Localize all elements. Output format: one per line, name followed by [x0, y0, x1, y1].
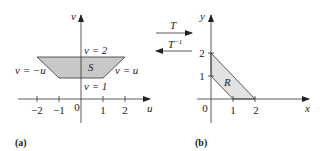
boundary-label-left: v = −u — [15, 64, 46, 76]
boundary-label-bottom: v = 1 — [84, 80, 107, 92]
x-axis-label: x — [304, 102, 310, 114]
origin-label: 0 — [202, 102, 208, 114]
diagram-canvas: −2 −1 0 1 2 u v v = 2 v = 1 v = −u v = u… — [0, 0, 327, 151]
u-tick-label: 2 — [122, 104, 128, 116]
u-tick-label: −1 — [53, 104, 65, 116]
x-tick-label: 1 — [230, 104, 236, 116]
forward-label: T — [170, 19, 177, 31]
y-tick-label: 1 — [199, 70, 205, 82]
boundary-label-top: v = 2 — [84, 44, 108, 56]
panel-a: −2 −1 0 1 2 u v v = 2 v = 1 v = −u v = u… — [15, 10, 153, 149]
origin-label: 0 — [74, 101, 80, 113]
u-tick-label: 1 — [100, 104, 106, 116]
inverse-label: T−1 — [168, 38, 182, 50]
region-r — [211, 53, 255, 99]
region-label-s: S — [88, 61, 94, 73]
u-tick-label: −2 — [31, 104, 43, 116]
x-tick-label: 2 — [253, 104, 259, 116]
v-axis-label: v — [71, 10, 76, 22]
panel-b: 0 1 2 1 2 x y R (b) — [195, 10, 310, 149]
boundary-label-right: v = u — [115, 64, 139, 76]
y-axis-label: y — [199, 10, 205, 22]
inverse-label-superscript: −1 — [174, 38, 182, 46]
y-tick-label: 2 — [199, 47, 205, 59]
caption-b: (b) — [195, 137, 207, 149]
transform-arrows: T T−1 — [156, 19, 192, 51]
u-axis-label: u — [147, 102, 153, 114]
region-label-r: R — [223, 76, 231, 88]
caption-a: (a) — [15, 137, 27, 149]
